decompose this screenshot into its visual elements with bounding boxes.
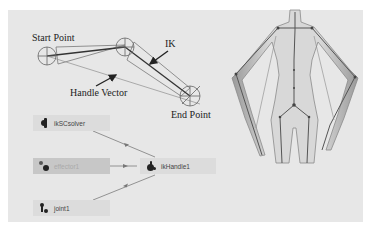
- start-point-label: Start Point: [32, 33, 75, 43]
- node-label: joint1: [54, 205, 70, 212]
- node-ik-handle[interactable]: ikHandle1: [140, 158, 216, 174]
- ik-handle-icon: [146, 161, 156, 171]
- node-joint[interactable]: joint1: [33, 200, 110, 216]
- joint-icon: [39, 203, 49, 213]
- node-ik-solver[interactable]: ikSCsolver: [33, 115, 110, 131]
- node-label: ikHandle1: [161, 163, 190, 170]
- handle-vector-label: Handle Vector: [70, 88, 127, 98]
- handle-vector-arrow: [96, 75, 116, 86]
- effector-icon: [39, 161, 49, 171]
- character-figure: [232, 10, 358, 163]
- solver-icon: [39, 118, 49, 128]
- node-label: effector1: [54, 163, 79, 170]
- end-point-label: End Point: [171, 110, 211, 120]
- node-effector[interactable]: effector1: [33, 158, 110, 174]
- ik-label: IK: [165, 39, 176, 49]
- node-label: ikSCsolver: [54, 120, 85, 127]
